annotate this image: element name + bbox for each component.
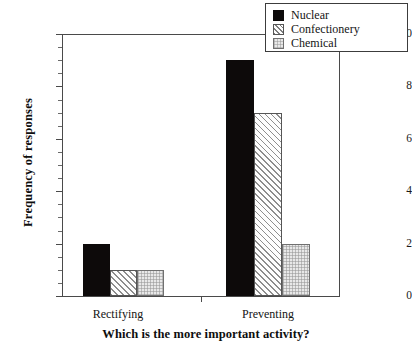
legend-item-confectionery: Confectionery — [273, 22, 407, 36]
bar-rectifying-nuclear — [83, 244, 110, 296]
y-tick-label-6: 6 — [362, 133, 412, 145]
legend-label-chemical: Chemical — [291, 37, 337, 49]
bar-preventing-nuclear — [226, 60, 254, 296]
legend-swatch-nuclear-icon — [273, 10, 284, 21]
chart-legend: Nuclear Confectionery Chemical — [265, 3, 408, 52]
y-tick-major — [56, 296, 62, 297]
bar-preventing-confectionery — [254, 113, 282, 296]
y-axis-title: Frequency of responses — [21, 38, 36, 288]
legend-label-nuclear: Nuclear — [291, 9, 329, 21]
x-tick-label-preventing: Preventing — [213, 308, 323, 320]
legend-label-confectionery: Confectionery — [291, 23, 360, 35]
x-axis-title: Which is the more important activity? — [0, 327, 412, 342]
bar-chart: 1086420 Rectifying Preventing Which is t… — [0, 0, 412, 351]
y-tick-label-8: 8 — [362, 80, 412, 92]
x-tick-label-rectifying: Rectifying — [63, 308, 173, 320]
y-tick-label-4: 4 — [362, 185, 412, 197]
legend-item-chemical: Chemical — [273, 36, 407, 50]
bar-rectifying-chemical — [137, 270, 164, 296]
bars-layer — [62, 34, 340, 296]
y-tick-label-2: 2 — [362, 238, 412, 250]
y-tick-label-0: 0 — [362, 290, 412, 302]
bar-preventing-chemical — [282, 244, 310, 296]
legend-swatch-chemical-icon — [273, 38, 284, 49]
bar-rectifying-confectionery — [110, 270, 137, 296]
x-axis-group-tick — [201, 296, 202, 302]
legend-item-nuclear: Nuclear — [273, 8, 407, 22]
legend-swatch-confectionery-icon — [273, 24, 284, 35]
